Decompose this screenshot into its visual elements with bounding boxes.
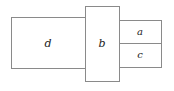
rectangle-label-b: b xyxy=(98,37,105,50)
rectangle-packing-diagram: d b a c xyxy=(0,0,174,91)
rectangle-label-c: c xyxy=(137,49,143,60)
rectangle-label-d: d xyxy=(44,37,51,50)
rectangle-label-a: a xyxy=(137,26,143,37)
diagram-canvas: d b a c xyxy=(0,0,174,91)
